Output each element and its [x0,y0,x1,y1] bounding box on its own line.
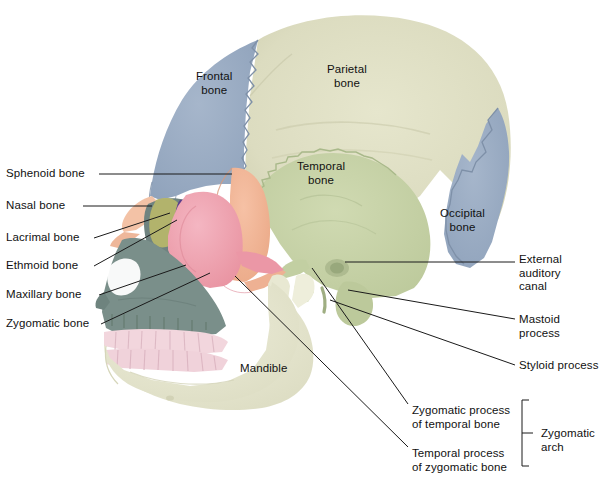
skull-illustration [0,0,601,479]
label-temporal-process-of-zygomatic-bone: Temporal process of zygomatic bone [412,447,507,474]
label-zygomatic-process-of-temporal-bone: Zygomatic process of temporal bone [412,404,510,431]
label-zygomatic-arch: Zygomatic arch [541,427,595,454]
label-external-auditory-canal: External auditory canal [519,253,601,294]
label-styloid-process: Styloid process [519,359,598,373]
label-zygomatic-bone: Zygomatic bone [6,317,89,331]
label-occipital-bone: Occipital bone [440,207,485,234]
label-ethmoid-bone: Ethmoid bone [6,259,78,273]
skull-anatomy-figure: Frontal bone Parietal bone Temporal bone… [0,0,601,479]
label-frontal-bone: Frontal bone [196,70,233,97]
label-mastoid-process: Mastoid process [519,313,601,340]
label-sphenoid-bone: Sphenoid bone [6,167,85,181]
label-maxillary-bone: Maxillary bone [6,288,82,302]
zygomatic-arch-brace [522,400,533,466]
label-nasal-bone: Nasal bone [6,199,65,213]
label-temporal-bone: Temporal bone [297,160,345,187]
label-mandible: Mandible [240,362,287,376]
label-lacrimal-bone: Lacrimal bone [6,231,80,245]
label-parietal-bone: Parietal bone [327,63,367,90]
